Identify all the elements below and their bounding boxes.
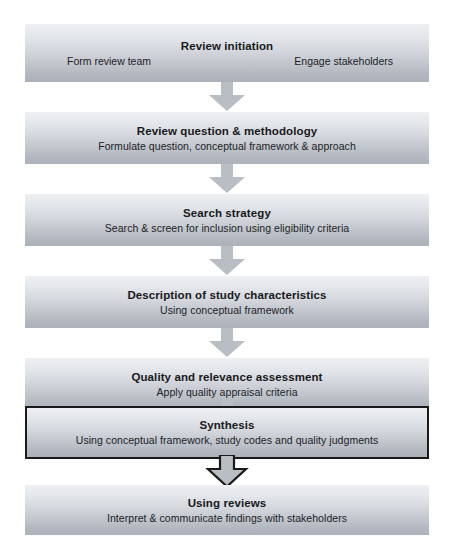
- connector-arrow-down: [204, 328, 250, 358]
- stage-search-strategy: Search strategy Search & screen for incl…: [25, 194, 429, 246]
- stage-subtitle: Search & screen for inclusion using elig…: [105, 221, 349, 235]
- stage-review-question-methodology: Review question & methodology Formulate …: [25, 112, 429, 164]
- stage-title: Review question & methodology: [137, 124, 318, 138]
- flowchart-diagram: Review initiation Form review team Engag…: [0, 0, 454, 543]
- stage-subtitle: Apply quality appraisal criteria: [156, 385, 297, 399]
- stage-using-reviews: Using reviews Interpret & communicate fi…: [25, 485, 429, 535]
- stage-subtitle: Interpret & communicate findings with st…: [107, 511, 347, 525]
- stage-right-label: Engage stakeholders: [294, 54, 393, 68]
- stage-subtitle: Using conceptual framework: [160, 303, 294, 317]
- stage-description-of-study-characteristics: Description of study characteristics Usi…: [25, 276, 429, 328]
- stage-subtitle: Formulate question, conceptual framework…: [98, 139, 356, 153]
- stage-subtitle: Using conceptual framework, study codes …: [76, 433, 378, 447]
- stage-title: Synthesis: [199, 418, 254, 432]
- stage-synthesis: Synthesis Using conceptual framework, st…: [25, 406, 429, 459]
- stage-review-initiation: Review initiation Form review team Engag…: [25, 24, 429, 82]
- stage-title: Quality and relevance assessment: [131, 370, 322, 384]
- stage-title: Using reviews: [188, 496, 267, 510]
- connector-arrow-down: [204, 164, 250, 194]
- connector-arrow-down: [204, 82, 250, 112]
- stage-title: Description of study characteristics: [127, 288, 326, 302]
- connector-arrow-down: [204, 246, 250, 276]
- stage-title: Review initiation: [181, 39, 273, 53]
- stage-split-labels: Form review team Engage stakeholders: [25, 54, 429, 68]
- stage-left-label: Form review team: [67, 54, 151, 68]
- stage-title: Search strategy: [183, 206, 271, 220]
- connector-arrow-down-outlined: [204, 455, 250, 488]
